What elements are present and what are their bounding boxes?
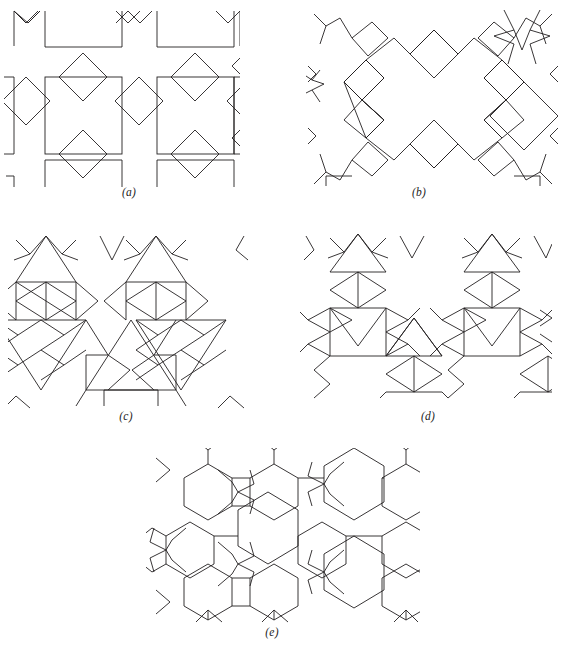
panel-d: [300, 230, 552, 412]
panel-a-label: (a): [109, 186, 149, 198]
panel-a: [4, 8, 240, 190]
panel-d-drawing: [300, 230, 552, 412]
panel-c-label: (c): [106, 410, 146, 422]
panel-a-drawing: [4, 8, 240, 190]
panel-c-drawing: [8, 230, 252, 412]
panel-b: [306, 8, 560, 190]
panel-c: [8, 230, 252, 412]
panel-e-label: (e): [252, 626, 292, 638]
panel-e-drawing: [146, 448, 420, 624]
figure-container: (a): [0, 0, 563, 659]
panel-b-drawing: [306, 8, 560, 190]
panel-b-label: (b): [399, 186, 439, 198]
panel-d-label: (d): [408, 410, 448, 422]
panel-e: [146, 448, 420, 624]
